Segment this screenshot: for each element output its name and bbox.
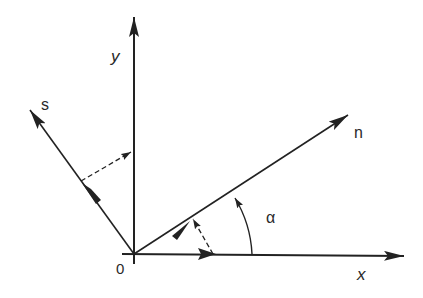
y-axis-label: y: [110, 47, 121, 66]
s-vector-label: s: [41, 96, 49, 113]
s-unit-arrowhead-icon: [82, 183, 101, 204]
x-axis: [122, 248, 404, 260]
angle-label: α: [266, 209, 275, 226]
projection-s-to-y: [81, 152, 131, 181]
coordinate-rotation-diagram: y x s n α 0: [0, 0, 423, 298]
n-vector-label: n: [354, 124, 363, 141]
n-vector: [134, 115, 348, 254]
projection-x-to-n: [193, 219, 213, 254]
angle-arc: [235, 198, 252, 254]
x-axis-label: x: [356, 265, 366, 284]
s-vector: [30, 110, 134, 254]
origin-label: 0: [116, 260, 124, 277]
